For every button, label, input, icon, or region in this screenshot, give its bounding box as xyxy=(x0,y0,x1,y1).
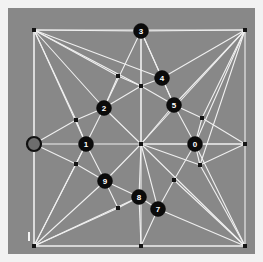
mesh-visualization-stage: 012345789 xyxy=(0,0,263,262)
node-circle-0[interactable] xyxy=(188,137,203,152)
node-circle-3[interactable] xyxy=(134,24,149,39)
mesh-edge xyxy=(200,165,245,246)
labeled-node-1[interactable]: 1 xyxy=(79,137,94,152)
mesh-edge xyxy=(118,76,141,86)
mesh-vertex-dot xyxy=(74,162,78,166)
node-circle-7[interactable] xyxy=(151,202,166,217)
mesh-edge xyxy=(141,30,245,144)
mesh-edge xyxy=(34,30,104,108)
mesh-edge xyxy=(200,144,245,165)
node-circle-2[interactable] xyxy=(97,101,112,116)
mesh-vertex-dot xyxy=(243,28,247,32)
labeled-node-3[interactable]: 3 xyxy=(134,24,149,39)
mesh-edge xyxy=(158,209,245,246)
mesh-vertex-dot xyxy=(139,244,143,248)
mesh-edge xyxy=(34,144,86,246)
mesh-vertex-dot xyxy=(172,178,176,182)
mesh-edge xyxy=(141,144,245,246)
node-circle-8[interactable] xyxy=(132,190,147,205)
labeled-node-9[interactable]: 9 xyxy=(98,174,113,189)
labeled-node-0[interactable]: 0 xyxy=(188,137,203,152)
labeled-node-2[interactable]: 2 xyxy=(97,101,112,116)
labeled-node-5[interactable]: 5 xyxy=(167,98,182,113)
mesh-edge xyxy=(162,30,245,78)
labeled-node-7[interactable]: 7 xyxy=(151,202,166,217)
mesh-edge xyxy=(34,181,105,246)
mesh-vertex-dot xyxy=(200,116,204,120)
mesh-vertex-dot xyxy=(198,163,202,167)
node-circle-9[interactable] xyxy=(98,174,113,189)
left-edge-marker[interactable] xyxy=(27,137,41,151)
mesh-vertex-dot xyxy=(32,244,36,248)
mesh-edge xyxy=(195,144,245,246)
node-circle-1[interactable] xyxy=(79,137,94,152)
mesh-graph-svg[interactable]: 012345789 xyxy=(0,0,263,262)
mesh-vertex-dot xyxy=(116,74,120,78)
mesh-vertex-dot xyxy=(139,142,143,146)
node-circle-5[interactable] xyxy=(167,98,182,113)
mesh-vertex-dot xyxy=(116,206,120,210)
mesh-vertex-dot xyxy=(74,118,78,122)
mesh-edge xyxy=(195,30,245,144)
mesh-vertex-dot xyxy=(32,28,36,32)
bottom-left-tick xyxy=(28,232,30,241)
edges-group xyxy=(34,30,245,246)
mesh-edge xyxy=(200,30,245,165)
node-circle-4[interactable] xyxy=(155,71,170,86)
mesh-vertex-dot xyxy=(243,244,247,248)
labeled-node-8[interactable]: 8 xyxy=(132,190,147,205)
labeled-node-4[interactable]: 4 xyxy=(155,71,170,86)
mesh-edge xyxy=(34,197,139,246)
mesh-edge xyxy=(34,30,118,76)
mesh-edge xyxy=(202,30,245,118)
mesh-vertex-dot xyxy=(243,142,247,146)
mesh-vertex-dot xyxy=(139,84,143,88)
